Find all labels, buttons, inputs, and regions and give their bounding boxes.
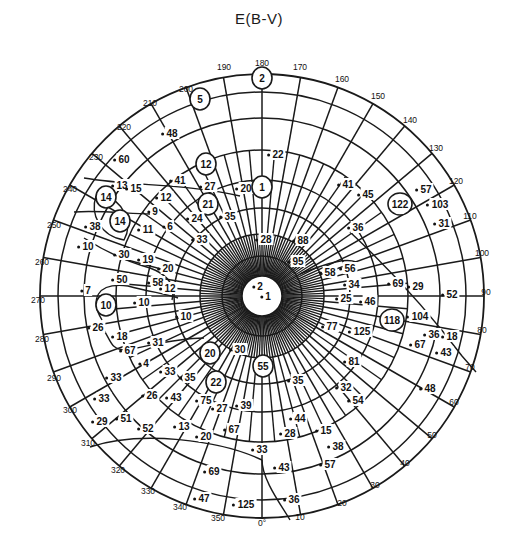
data-point: 14 xyxy=(110,210,130,232)
data-dot xyxy=(173,426,176,429)
data-dot xyxy=(357,194,360,197)
data-point: 44 xyxy=(289,412,307,424)
data-value: 24 xyxy=(191,213,203,224)
data-dot xyxy=(84,226,87,229)
data-value: 19 xyxy=(142,254,154,265)
data-point: 31 xyxy=(147,336,165,348)
data-value: 36 xyxy=(288,494,300,505)
data-point: 67 xyxy=(409,338,427,350)
data-point: 69 xyxy=(203,465,221,477)
data-dot xyxy=(141,395,144,398)
data-dot xyxy=(441,294,444,297)
data-point: 33 xyxy=(105,371,123,383)
data-point: 38 xyxy=(84,220,102,232)
data-dot xyxy=(232,504,235,507)
data-value: 60 xyxy=(118,154,130,165)
data-dot xyxy=(219,216,222,219)
data-point: 55 xyxy=(253,355,273,377)
data-value: 6 xyxy=(167,221,173,232)
data-value: 29 xyxy=(96,416,108,427)
data-dot xyxy=(347,400,350,403)
data-value: 43 xyxy=(278,462,290,473)
data-value: 95 xyxy=(292,256,304,267)
data-value: 38 xyxy=(332,441,344,452)
data-dot xyxy=(289,418,292,421)
data-value: 52 xyxy=(142,423,154,434)
data-dot xyxy=(137,428,140,431)
data-point: 125 xyxy=(348,325,373,337)
data-dot xyxy=(335,387,338,390)
data-dot xyxy=(441,336,444,339)
data-value: 35 xyxy=(224,211,236,222)
data-value: 67 xyxy=(414,339,426,350)
data-point: 52 xyxy=(137,422,155,434)
angle-tick-label: 150 xyxy=(371,91,385,101)
data-value: 30 xyxy=(118,249,130,260)
data-value: 122 xyxy=(392,199,409,210)
data-dot xyxy=(319,464,322,467)
data-value: 2 xyxy=(259,73,265,84)
data-dot xyxy=(147,282,150,285)
data-dot xyxy=(159,288,162,291)
angle-tick-label: 100 xyxy=(475,248,489,258)
data-point: 43 xyxy=(435,346,453,358)
angle-tick-label: 140 xyxy=(403,115,417,125)
data-value: 33 xyxy=(256,444,268,455)
angle-tick-label: 290 xyxy=(47,373,61,383)
data-dot xyxy=(260,296,263,299)
angle-tick-label: 220 xyxy=(117,122,131,132)
data-dot xyxy=(339,268,342,271)
data-value: 15 xyxy=(130,183,142,194)
angle-tick-label: 70 xyxy=(465,362,475,372)
data-value: 10 xyxy=(180,311,192,322)
data-point: 29 xyxy=(407,280,425,292)
data-dot xyxy=(195,436,198,439)
data-value: 31 xyxy=(438,218,450,229)
data-point: 12 xyxy=(196,153,216,175)
angle-tick-label: 250 xyxy=(47,220,61,230)
data-dot xyxy=(161,133,164,136)
angle-tick-label: 320 xyxy=(111,465,125,475)
data-dot xyxy=(251,449,254,452)
data-dot xyxy=(252,286,255,289)
data-point: 27 xyxy=(199,180,217,192)
data-point: 10 xyxy=(133,296,151,308)
data-dot xyxy=(80,290,83,293)
grid-spoke xyxy=(119,126,249,281)
data-point: 38 xyxy=(327,440,345,452)
data-dot xyxy=(279,433,282,436)
data-value: 45 xyxy=(362,189,374,200)
data-point: 33 xyxy=(251,443,269,455)
data-value: 58 xyxy=(152,277,164,288)
data-point: 14 xyxy=(96,186,116,208)
data-dot xyxy=(91,421,94,424)
data-point: 60 xyxy=(113,153,131,165)
data-dot xyxy=(337,184,340,187)
data-value: 57 xyxy=(324,459,336,470)
data-point: 118 xyxy=(380,309,404,331)
data-dot xyxy=(115,418,118,421)
data-dot xyxy=(179,377,182,380)
data-dot xyxy=(267,154,270,157)
data-point: 77 xyxy=(321,320,339,332)
data-dot xyxy=(203,471,206,474)
angle-tick-label: 20 xyxy=(337,498,347,508)
data-dot xyxy=(287,261,290,264)
data-point: 48 xyxy=(161,127,179,139)
angle-tick-label: 10 xyxy=(295,512,305,522)
data-point: 18 xyxy=(111,330,129,342)
data-value: 56 xyxy=(344,263,356,274)
data-value: 20 xyxy=(240,183,252,194)
data-dot xyxy=(119,350,122,353)
data-point: 20 xyxy=(200,342,220,364)
data-dot xyxy=(105,377,108,380)
data-value: 10 xyxy=(100,300,112,311)
data-point: 27 xyxy=(211,402,229,414)
data-dot xyxy=(419,388,422,391)
data-value: 125 xyxy=(238,499,255,510)
data-value: 32 xyxy=(340,382,352,393)
angle-tick-label: 80 xyxy=(477,325,487,335)
data-value: 1 xyxy=(259,182,265,193)
data-point: 52 xyxy=(441,288,459,300)
data-value: 31 xyxy=(152,337,164,348)
